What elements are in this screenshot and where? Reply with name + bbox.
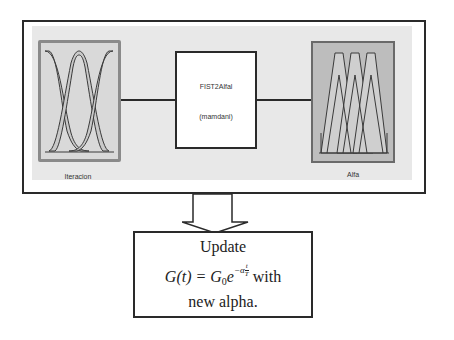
down-arrow-icon [182, 194, 252, 234]
formula-suffix: with [249, 268, 281, 285]
triangular-mf-icon [313, 43, 393, 161]
update-step-box: Update G(t) = G0e−αtT with new alpha. [133, 231, 313, 318]
formula-lhs: G(t) = G [165, 268, 222, 285]
update-formula: G(t) = G0e−αtT with [135, 263, 311, 287]
formula-exp-den: T [245, 271, 249, 278]
input-connector-line [121, 99, 175, 101]
update-title: Update [135, 238, 311, 256]
output-connector-line [257, 99, 311, 101]
output-label: Alfa [323, 171, 383, 178]
output-mf-panel[interactable] [311, 41, 395, 163]
input-label: Iteracion [48, 173, 108, 180]
update-tail: new alpha. [135, 293, 311, 311]
gaussian-mf-icon [41, 43, 118, 159]
fis-type: (mamdani) [177, 113, 255, 120]
formula-exp-prefix: −α [234, 265, 245, 275]
input-mf-panel[interactable] [38, 40, 121, 162]
fis-system-box[interactable]: FIST2Alfal (mamdani) [175, 51, 257, 149]
formula-base: e [227, 268, 234, 285]
fis-name: FIST2Alfal [177, 83, 255, 90]
